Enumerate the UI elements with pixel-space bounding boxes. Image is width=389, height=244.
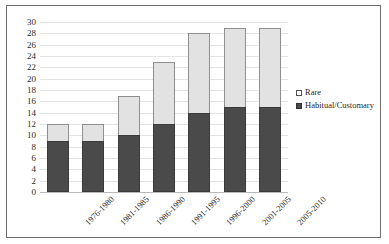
bar-segment-rare[interactable] — [118, 96, 140, 137]
y-tick-label: 8 — [32, 142, 37, 151]
x-tick-label: 2001-2005 — [260, 194, 293, 227]
y-tick-label: 10 — [27, 131, 36, 140]
bar-segment-rare[interactable] — [259, 28, 281, 108]
y-tick-label: 16 — [27, 97, 36, 106]
x-tick-label: 1986-1990 — [153, 194, 186, 227]
bar-segment-rare[interactable] — [188, 33, 210, 113]
y-tick-label: 30 — [27, 18, 36, 27]
bar-segment-habitual-customary[interactable] — [259, 107, 281, 192]
bar-segment-rare[interactable] — [224, 28, 246, 108]
y-tick-label: 14 — [27, 108, 36, 117]
bar-group[interactable] — [259, 22, 281, 192]
bar-segment-habitual-customary[interactable] — [47, 141, 69, 192]
y-tick-label: 24 — [27, 52, 36, 61]
bar-group[interactable] — [118, 22, 140, 192]
bar-segment-habitual-customary[interactable] — [82, 141, 104, 192]
bar-segment-habitual-customary[interactable] — [224, 107, 246, 192]
chart-legend: RareHabitual/Customary — [296, 86, 374, 112]
x-axis-labels: 1976-19801981-19851986-19901991-19951996… — [40, 192, 288, 242]
bar-segment-rare[interactable] — [47, 124, 69, 142]
bar-segment-habitual-customary[interactable] — [188, 113, 210, 192]
y-tick-label: 0 — [32, 188, 37, 197]
bar-group[interactable] — [47, 22, 69, 192]
bar-segment-habitual-customary[interactable] — [118, 135, 140, 192]
bar-segment-habitual-customary[interactable] — [153, 124, 175, 192]
legend-swatch-light — [296, 90, 302, 96]
chart-figure: 024681012141618202224262830 1976-1980198… — [0, 0, 389, 244]
y-tick-label: 6 — [32, 154, 37, 163]
bar-series-container — [40, 22, 288, 192]
bar-segment-rare[interactable] — [82, 124, 104, 142]
bar-group[interactable] — [82, 22, 104, 192]
plot-area: 024681012141618202224262830 — [40, 22, 288, 192]
y-tick-label: 28 — [27, 29, 36, 38]
x-tick-label: 1981-1985 — [118, 194, 151, 227]
bar-group[interactable] — [188, 22, 210, 192]
y-tick-label: 26 — [27, 40, 36, 49]
x-tick-label: 1976-1980 — [82, 194, 115, 227]
legend-label: Rare — [305, 86, 321, 99]
y-tick-label: 20 — [27, 74, 36, 83]
y-tick-label: 12 — [27, 120, 36, 129]
y-tick-label: 18 — [27, 86, 36, 95]
legend-item[interactable]: Rare — [296, 86, 374, 99]
legend-label: Habitual/Customary — [305, 99, 374, 112]
legend-item[interactable]: Habitual/Customary — [296, 99, 374, 112]
y-tick-label: 4 — [32, 165, 37, 174]
y-tick-label: 22 — [27, 63, 36, 72]
y-tick-label: 2 — [32, 176, 37, 185]
legend-swatch-dark — [296, 103, 302, 109]
x-tick-label: 1991-1995 — [189, 194, 222, 227]
bar-segment-rare[interactable] — [153, 62, 175, 125]
x-tick-label: 1996-2000 — [224, 194, 257, 227]
bar-group[interactable] — [153, 22, 175, 192]
bar-group[interactable] — [224, 22, 246, 192]
